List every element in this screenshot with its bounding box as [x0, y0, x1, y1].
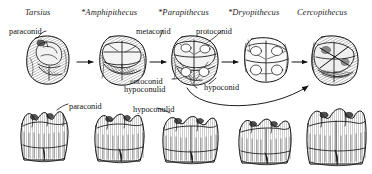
leader-paraconid-lateral	[57, 104, 68, 110]
leader-lines-lateral	[57, 104, 170, 113]
tooth-evolution-figure: Tarsius *Amphipithecus *Parapithecus *Dr…	[0, 0, 372, 174]
occlusal-tooth-tarsius	[27, 36, 69, 84]
occlusal-tooth-parapithecus	[172, 36, 218, 85]
figure-artwork	[0, 0, 372, 174]
lateral-tooth-tarsius	[21, 112, 68, 162]
lateral-tooth-parapithecus	[163, 116, 218, 163]
lateral-tooth-cercopithecus	[307, 109, 366, 166]
leader-metaconid	[160, 30, 163, 37]
curved-arrow-parapithecus-to-cercopithecus	[187, 86, 308, 106]
lateral-tooth-amphipithecus	[95, 114, 144, 163]
occlusal-tooth-dryopithecus	[245, 38, 289, 83]
occlusal-tooth-amphipithecus	[100, 36, 146, 85]
occlusal-tooth-cercopithecus	[312, 36, 358, 85]
lateral-tooth-dryopithecus	[239, 119, 291, 165]
leader-hypoconulid-lateral	[157, 108, 170, 113]
